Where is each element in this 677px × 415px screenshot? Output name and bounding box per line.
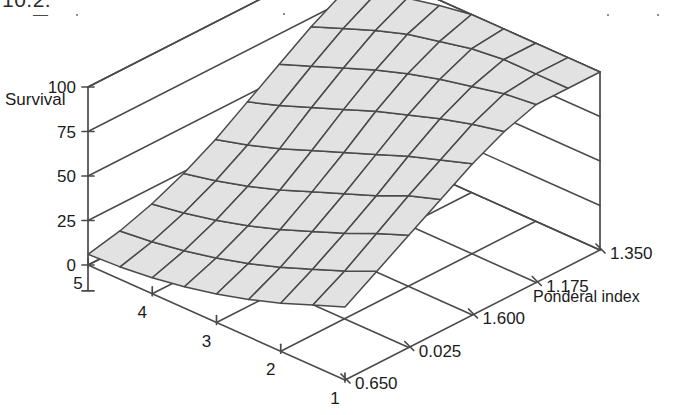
z-axis-title: Survival bbox=[5, 90, 65, 109]
tick-label: 50 bbox=[57, 167, 76, 186]
tick-label: 1 bbox=[330, 389, 339, 408]
tick-label: 1.350 bbox=[610, 244, 653, 263]
tick-label: 0.025 bbox=[419, 342, 462, 361]
tick-label: 4 bbox=[138, 303, 147, 322]
tick-label: 0 bbox=[67, 256, 76, 275]
surface-mesh bbox=[88, 0, 600, 307]
tick-label: 25 bbox=[57, 212, 76, 231]
tick-label: 5 bbox=[73, 274, 82, 293]
tick-label: 75 bbox=[57, 123, 76, 142]
tick-label: 0.650 bbox=[355, 374, 398, 393]
y-axis-title: Ponderal index bbox=[533, 288, 640, 305]
tick-label: 1.600 bbox=[483, 309, 526, 328]
tick-label: 2 bbox=[266, 360, 275, 379]
tick-label: 3 bbox=[202, 332, 211, 351]
surface-plot-figure: 1007550250543210.6500.0251.6001.1751.350… bbox=[0, 0, 677, 415]
